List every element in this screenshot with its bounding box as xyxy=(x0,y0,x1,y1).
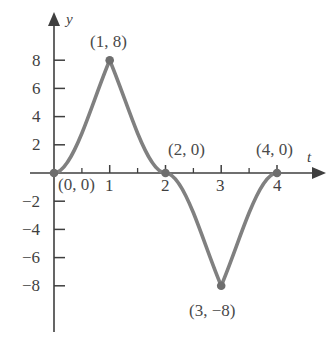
sine-curve-figure: 8 6 4 2 −2 −4 −6 −8 1 2 3 4 y t (0, 0) (… xyxy=(0,0,332,342)
x-tick-label-2: 2 xyxy=(161,177,170,194)
point-3-m8 xyxy=(217,282,226,291)
point-label-zero-4: (4, 0) xyxy=(256,141,293,158)
y-axis-label: y xyxy=(66,12,73,27)
point-label-origin: (0, 0) xyxy=(58,176,95,193)
y-tick-label-minus-6: −6 xyxy=(22,249,40,266)
plot-canvas xyxy=(0,0,332,342)
point-label-zero-2: (2, 0) xyxy=(168,141,205,158)
point-label-trough: (3, −8) xyxy=(189,302,235,319)
x-tick-label-4: 4 xyxy=(273,177,282,194)
x-axis-arrowhead xyxy=(312,167,326,179)
y-tick-label-minus-2: −2 xyxy=(22,193,40,210)
point-label-peak: (1, 8) xyxy=(90,33,127,50)
point-1-8 xyxy=(105,56,114,65)
x-tick-label-3: 3 xyxy=(216,177,225,194)
y-tick-label-6: 6 xyxy=(32,80,41,97)
y-tick-label-minus-4: −4 xyxy=(22,221,40,238)
y-tick-label-minus-8: −8 xyxy=(22,277,40,294)
x-tick-label-1: 1 xyxy=(105,177,114,194)
y-tick-label-8: 8 xyxy=(32,52,41,69)
y-tick-label-2: 2 xyxy=(32,136,41,153)
point-0-0 xyxy=(50,169,59,178)
y-tick-label-4: 4 xyxy=(32,108,41,125)
t-axis-label: t xyxy=(307,150,311,165)
y-axis-arrowhead xyxy=(48,12,60,26)
